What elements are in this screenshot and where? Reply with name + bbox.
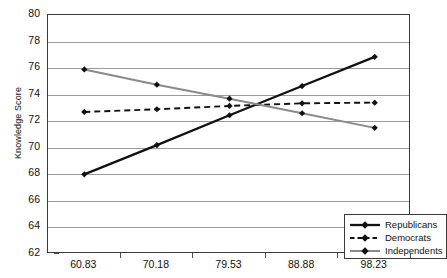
data-point-marker [299, 83, 305, 89]
data-point-marker [81, 171, 87, 177]
data-point-marker [154, 82, 160, 88]
data-point-marker [372, 100, 378, 106]
data-point-marker [81, 66, 87, 72]
data-point-marker [154, 142, 160, 148]
y-axis-tick-label: 64 [14, 220, 40, 230]
data-point-marker [372, 125, 378, 131]
legend-swatch-independents [349, 245, 381, 257]
legend-swatch-republicans [349, 219, 381, 231]
legend-item-republicans: Republicans [349, 218, 442, 231]
x-axis-tick-label: 60.83 [48, 258, 118, 270]
x-axis-tick-label: 98.23 [339, 258, 409, 270]
legend-label-republicans: Republicans [385, 219, 437, 231]
y-axis-tick-label: 62 [14, 247, 40, 257]
x-axis-tick-label: 88.88 [266, 258, 336, 270]
data-point-marker [154, 106, 160, 112]
series-independents [81, 66, 378, 131]
legend-item-democrats: Democrats [349, 231, 442, 244]
y-axis-tick-label: 76 [14, 61, 40, 71]
legend-label-independents: Independents [385, 245, 443, 257]
series-republicans [81, 54, 378, 178]
y-axis-tick-label: 72 [14, 114, 40, 124]
legend: Republicans Democrats Independents [344, 214, 447, 259]
data-point-marker [81, 109, 87, 115]
y-axis-tick-label: 78 [14, 35, 40, 45]
x-axis-tick-mark [410, 253, 411, 258]
data-point-marker [299, 110, 305, 116]
data-point-marker [226, 103, 232, 109]
legend-item-independents: Independents [349, 244, 442, 257]
x-axis-tick-label: 79.53 [194, 258, 264, 270]
plot-area: Republicans Democrats Independents [47, 14, 410, 253]
y-axis-tick-label: 68 [14, 167, 40, 177]
data-point-marker [226, 112, 232, 118]
x-axis-tick-label: 70.18 [121, 258, 191, 270]
y-axis-tick-label: 70 [14, 141, 40, 151]
data-point-marker [299, 100, 305, 106]
data-point-marker [372, 54, 378, 60]
y-axis-tick-label: 66 [14, 194, 40, 204]
y-axis-tick-labels: 62646668707274767880 [14, 0, 40, 278]
legend-label-democrats: Democrats [385, 232, 431, 244]
legend-swatch-democrats [349, 232, 381, 244]
y-axis-tick-label: 74 [14, 88, 40, 98]
data-point-marker [226, 96, 232, 102]
y-axis-tick-label: 80 [14, 8, 40, 18]
